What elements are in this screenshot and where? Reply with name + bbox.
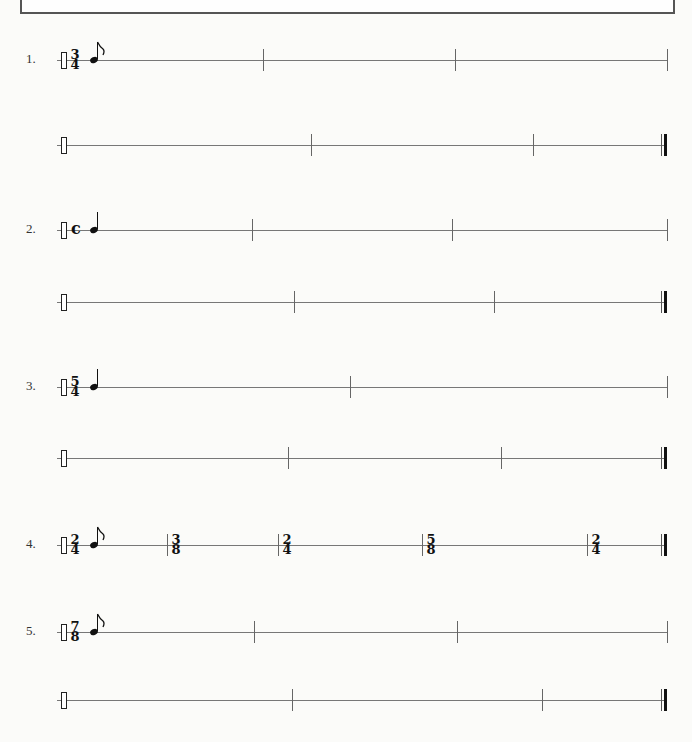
barline — [533, 134, 534, 156]
time-signature-change: 2 4 — [282, 535, 292, 555]
final-barline-thick — [664, 134, 667, 156]
rhythm-staff-line — [57, 230, 667, 231]
eighth-note-icon — [88, 40, 112, 68]
common-time-symbol: c — [71, 219, 81, 238]
barline — [542, 689, 543, 711]
rhythm-staff-line — [57, 387, 667, 388]
rhythm-staff-line — [57, 458, 667, 459]
final-barline-thin — [661, 291, 662, 313]
barline — [294, 291, 295, 313]
percussion-clef-icon — [61, 294, 67, 311]
barline — [452, 219, 453, 241]
time-signature-change: 3 8 — [171, 535, 181, 555]
barline — [167, 534, 168, 556]
barline — [494, 291, 495, 313]
final-barline-thin — [661, 447, 662, 469]
barline — [457, 621, 458, 643]
barline — [254, 621, 255, 643]
rhythm-staff-line — [57, 545, 667, 546]
time-signature-change: 5 8 — [426, 535, 436, 555]
barline — [263, 49, 264, 71]
barline — [422, 534, 423, 556]
exercise-number: 3. — [26, 378, 36, 394]
barline — [292, 689, 293, 711]
percussion-clef-icon — [61, 624, 67, 641]
time-signature: 2 4 — [70, 535, 80, 555]
percussion-clef-icon — [61, 52, 67, 69]
barline — [311, 134, 312, 156]
barline — [252, 219, 253, 241]
time-signature-change: 2 4 — [591, 535, 601, 555]
final-barline-thin — [661, 689, 662, 711]
percussion-clef-icon — [61, 379, 67, 396]
barline — [501, 447, 502, 469]
header-box — [20, 0, 675, 14]
barline — [455, 49, 456, 71]
final-barline-thick — [664, 534, 667, 556]
barline — [667, 376, 668, 398]
eighth-note-icon — [88, 525, 112, 553]
time-signature: 3 4 — [70, 50, 80, 70]
exercise-number: 5. — [26, 623, 36, 639]
exercise-number: 1. — [26, 51, 36, 67]
rhythm-staff-line — [57, 700, 667, 701]
rhythm-staff-line — [57, 302, 667, 303]
final-barline-thin — [661, 534, 662, 556]
barline — [288, 447, 289, 469]
rhythm-staff-line — [57, 60, 667, 61]
barline — [350, 376, 351, 398]
percussion-clef-icon — [61, 692, 67, 709]
time-signature: 7 8 — [70, 622, 80, 642]
quarter-note-icon — [88, 367, 112, 395]
percussion-clef-icon — [61, 450, 67, 467]
time-signature: 5 4 — [70, 377, 80, 397]
exercise-number: 2. — [26, 221, 36, 237]
final-barline-thick — [664, 447, 667, 469]
eighth-note-icon — [88, 612, 112, 640]
percussion-clef-icon — [61, 537, 67, 554]
barline — [667, 621, 668, 643]
rhythm-staff-line — [57, 145, 667, 146]
percussion-clef-icon — [61, 222, 67, 239]
barline — [667, 49, 668, 71]
rhythm-staff-line — [57, 632, 667, 633]
barline — [587, 534, 588, 556]
exercise-number: 4. — [26, 536, 36, 552]
barline — [278, 534, 279, 556]
final-barline-thick — [664, 291, 667, 313]
final-barline-thick — [664, 689, 667, 711]
barline — [667, 219, 668, 241]
final-barline-thin — [661, 134, 662, 156]
quarter-note-icon — [88, 210, 112, 238]
percussion-clef-icon — [61, 137, 67, 154]
